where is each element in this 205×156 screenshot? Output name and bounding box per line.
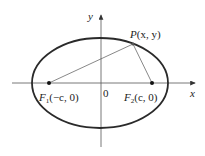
- point-p-label: P(x, y): [129, 28, 161, 41]
- focus-f1-dot: [47, 81, 51, 85]
- focus-f2-coords: (c, 0): [134, 91, 158, 104]
- focus-f1-coords: (−c, 0): [49, 91, 79, 104]
- focus-f1-label: F1(−c, 0): [38, 91, 79, 105]
- line-f1-to-p: [49, 44, 133, 83]
- point-p-coords: (x, y): [137, 28, 161, 41]
- focus-f2-dot: [150, 81, 154, 85]
- x-axis-label: x: [189, 87, 195, 99]
- focus-f2-label: F2(c, 0): [123, 91, 158, 105]
- origin-label: 0: [103, 87, 109, 99]
- ellipse-diagram: y x 0 P(x, y) F1(−c, 0) F2(c, 0): [0, 0, 205, 156]
- point-p-dot: [131, 42, 134, 45]
- line-p-to-f2: [133, 44, 152, 83]
- y-axis-label: y: [87, 10, 93, 22]
